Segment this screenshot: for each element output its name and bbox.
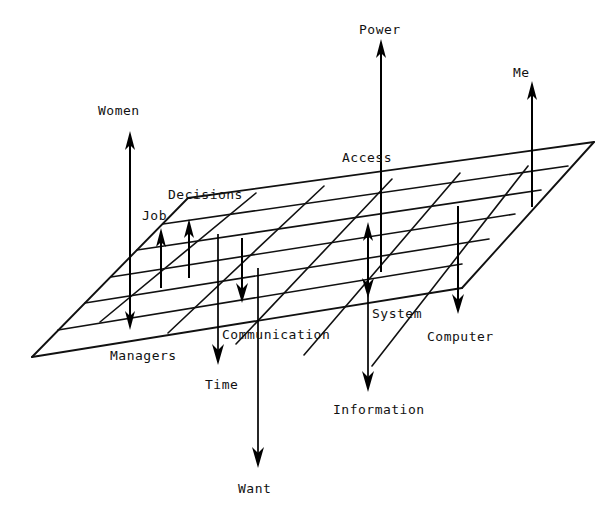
label-communication: Communication [222,328,330,341]
label-computer: Computer [427,330,494,343]
me-arrow [527,81,537,207]
label-decisions: Decisions [168,188,243,201]
managers-arrow [125,274,135,330]
diagram-canvas: Women Decisions Job Power Access Me Mana… [0,0,613,512]
label-system: System [372,307,422,320]
label-access: Access [342,151,392,164]
label-power: Power [359,23,401,36]
label-me: Me [513,66,530,79]
label-information: Information [333,403,425,416]
grid-line-trans-2 [168,186,324,333]
grid-lines-longitudinal [58,166,568,330]
plane-edge-bottom-right [462,142,594,288]
communication-arrow [236,238,248,303]
label-managers: Managers [110,349,177,362]
label-women: Women [98,104,140,117]
label-job: Job [142,209,167,222]
label-want: Want [238,482,271,495]
decisions-arrow [184,219,194,278]
label-time: Time [205,378,238,391]
job-arrow [156,228,166,288]
time-arrow [212,234,224,365]
